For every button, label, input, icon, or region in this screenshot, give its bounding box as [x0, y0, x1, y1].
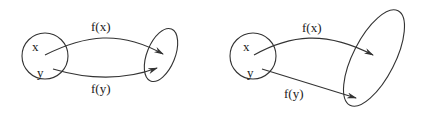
left-diagram: x y f(x) f(y) — [22, 19, 184, 96]
left-domain-circle — [22, 33, 68, 79]
right-label-fx: f(x) — [302, 20, 322, 35]
right-label-fy: f(y) — [284, 86, 304, 101]
right-arrow-fy — [262, 69, 356, 98]
left-label-fy: f(y) — [91, 81, 111, 96]
right-arrow-fx — [254, 38, 373, 55]
right-diagram: x y f(x) f(y) — [230, 1, 417, 114]
right-label-x: x — [243, 39, 250, 54]
diagram-svg: x y f(x) f(y) x y f(x) f(y) — [0, 0, 423, 114]
left-arrow-fy — [53, 68, 157, 77]
right-codomain-ellipse — [331, 1, 417, 114]
left-codomain-ellipse — [138, 24, 185, 86]
left-label-x: x — [32, 39, 39, 54]
left-label-y: y — [37, 65, 44, 80]
right-label-y: y — [247, 65, 254, 80]
left-label-fx: f(x) — [91, 19, 111, 34]
mapping-diagrams: x y f(x) f(y) x y f(x) f(y) — [0, 0, 423, 114]
